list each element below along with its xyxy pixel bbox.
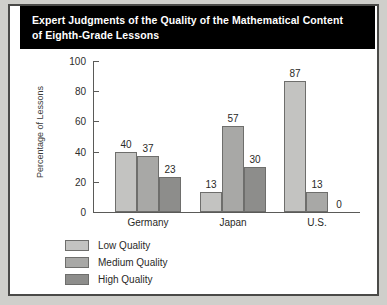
bar	[159, 177, 181, 212]
y-axis-label: Percentage of Lessons	[35, 72, 45, 192]
bar-value-label: 87	[280, 68, 310, 79]
bar-value-label: 0	[324, 199, 354, 210]
bar	[222, 126, 244, 212]
y-axis-tick	[94, 152, 99, 153]
x-axis-category-label: Germany	[101, 217, 195, 228]
y-axis-line	[93, 61, 94, 213]
bar-value-label: 37	[133, 143, 163, 154]
y-axis-tick	[94, 91, 99, 92]
bar-value-label: 23	[155, 164, 185, 175]
chart-figure: Expert Judgments of the Quality of the M…	[8, 4, 379, 296]
x-axis-category-label: Japan	[186, 217, 280, 228]
y-axis-tick	[94, 121, 99, 122]
chart-title-bar: Expert Judgments of the Quality of the M…	[20, 6, 375, 49]
y-axis-tick-label: 60	[60, 116, 86, 127]
legend-swatch	[65, 257, 89, 268]
legend-swatch	[65, 240, 89, 251]
legend-item: Medium Quality	[65, 255, 167, 269]
legend-label: Low Quality	[98, 240, 150, 251]
chart-legend: Low QualityMedium QualityHigh Quality	[65, 238, 167, 289]
legend-item: Low Quality	[65, 238, 167, 252]
bar-value-label: 30	[240, 154, 270, 165]
bar	[115, 152, 137, 212]
y-axis-tick-label: 40	[60, 146, 86, 157]
bar	[284, 81, 306, 212]
x-axis-category-label: U.S.	[270, 217, 364, 228]
y-axis-tick	[94, 182, 99, 183]
bar	[200, 192, 222, 212]
bar	[244, 167, 266, 212]
legend-label: High Quality	[98, 274, 152, 285]
x-axis-line	[93, 212, 360, 213]
legend-label: Medium Quality	[98, 257, 167, 268]
y-axis-tick-label: 80	[60, 86, 86, 97]
legend-swatch	[65, 274, 89, 285]
page-title: Expert Judgments of the Quality of the M…	[32, 13, 365, 42]
y-axis-tick-label: 100	[60, 56, 86, 67]
legend-item: High Quality	[65, 272, 167, 286]
bar-value-label: 57	[218, 113, 248, 124]
bar-value-label: 13	[302, 179, 332, 190]
y-axis-tick-label: 20	[60, 176, 86, 187]
y-axis-tick-label: 0	[60, 207, 86, 218]
y-axis-tick	[94, 61, 99, 62]
